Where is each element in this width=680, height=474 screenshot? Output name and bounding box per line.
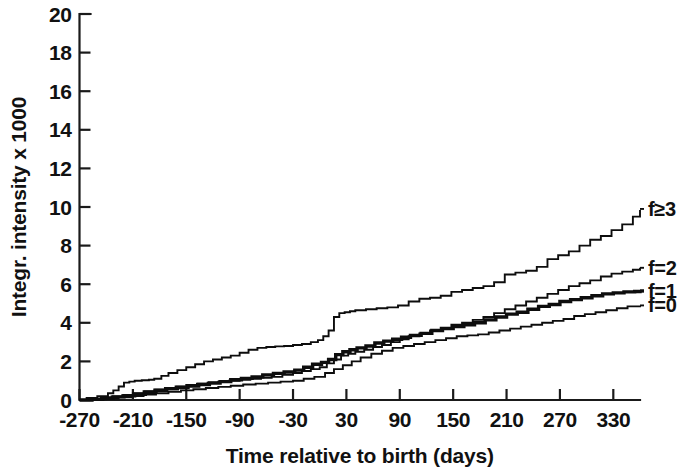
x-tick-label-150: 150 [436,408,470,431]
y-tick-label-20: 20 [49,3,72,26]
y-tick-label-4: 4 [60,311,72,334]
y-tick-label-8: 8 [60,234,72,257]
series-curves [80,209,645,400]
series-labels: f≥3f=2f=1f=0 [648,198,677,317]
x-tick-label--90: -90 [225,408,254,431]
series-label-f=0: f=0 [648,294,677,316]
x-tick-label--210: -210 [113,408,153,431]
y-tick-label-18: 18 [49,41,72,64]
axes [80,14,641,400]
curve-f=2 [80,268,641,400]
axis-spines [80,14,641,400]
y-axis-title: Integr. intensity x 1000 [7,97,30,317]
x-tick-label--150: -150 [166,408,206,431]
series-label-f=2: f=2 [648,257,677,279]
curve-f=0 [80,305,641,400]
y-tick-label-14: 14 [49,118,72,141]
tick-labels: 02468101214161820-270-210-150-90-3030901… [49,3,630,432]
y-tick-label-16: 16 [49,80,72,103]
x-tick-label-210: 210 [490,408,524,431]
x-tick-label--270: -270 [59,408,99,431]
series-label-f>=3: f≥3 [648,198,676,220]
chart-figure: 02468101214161820-270-210-150-90-3030901… [0,0,680,474]
x-tick-label-30: 30 [335,408,358,431]
y-tick-label-10: 10 [49,196,72,219]
step-chart: 02468101214161820-270-210-150-90-3030901… [0,0,680,474]
x-tick-label-90: 90 [389,408,412,431]
y-tick-label-12: 12 [49,157,72,180]
y-tick-label-2: 2 [60,350,71,373]
x-tick-label--30: -30 [278,408,307,431]
y-tick-label-6: 6 [60,273,71,296]
x-tick-label-330: 330 [596,408,630,431]
x-axis-title: Time relative to birth (days) [226,444,494,467]
curve-f=1 [80,291,641,400]
x-tick-label-270: 270 [543,408,577,431]
